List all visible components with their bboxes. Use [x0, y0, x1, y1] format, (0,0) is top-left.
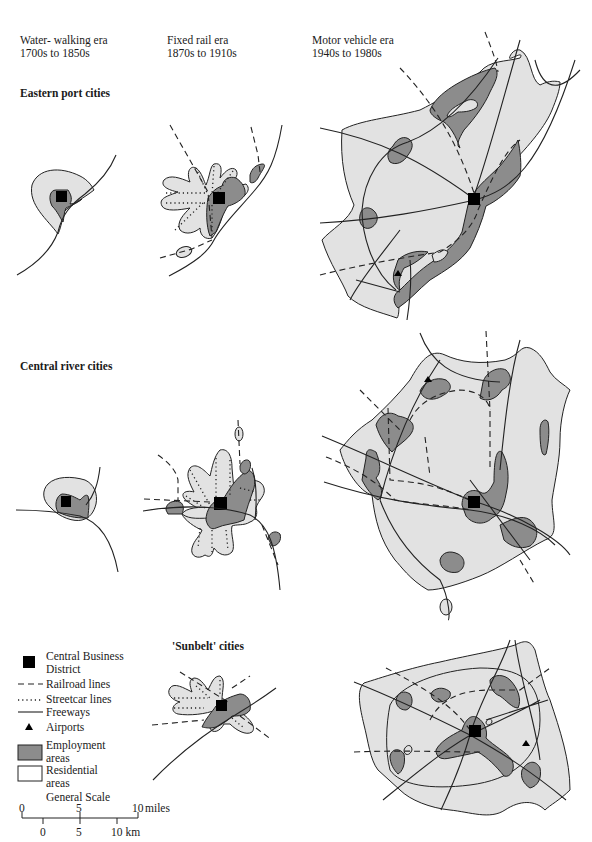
- legend-label: areas: [46, 752, 105, 765]
- diagram-sunbelt-rail: [152, 672, 276, 780]
- legend-cbd-icon: [23, 656, 35, 668]
- cbd-marker: [61, 496, 71, 507]
- legend-label: Residential: [46, 764, 98, 777]
- cbd-marker: [56, 191, 67, 202]
- scale-miles-10: 10: [132, 802, 144, 815]
- diagram-central-motor: [322, 331, 570, 620]
- legend-label: District: [46, 663, 124, 676]
- legend-streetcar: Streetcar lines: [46, 693, 111, 706]
- legend-label: Employment: [46, 739, 105, 752]
- legend-residential: Residential areas: [46, 764, 98, 789]
- scale-miles-0: 0: [19, 802, 25, 815]
- cbd-marker: [469, 725, 481, 737]
- legend-residential-icon: [18, 766, 42, 781]
- scale-km-10: 10 km: [111, 826, 140, 839]
- diagram-eastern-motor: [320, 32, 580, 320]
- diagram-central-rail: [143, 420, 281, 590]
- cbd-marker: [216, 700, 227, 711]
- diagram-eastern-walking: [17, 155, 116, 275]
- scale-miles-unit: miles: [145, 802, 170, 815]
- legend-airports: Airports: [46, 721, 84, 734]
- diagram-central-walking: [16, 467, 118, 572]
- diagram-eastern-rail: [160, 125, 282, 276]
- scale-miles-5: 5: [76, 802, 82, 815]
- scale-km-0: 0: [40, 826, 46, 839]
- legend-airport-icon: [25, 723, 33, 730]
- scale-km-5: 5: [76, 826, 82, 839]
- legend-label: areas: [46, 777, 98, 790]
- legend-freeways: Freeways: [46, 706, 90, 719]
- legend-label: Central Business: [46, 650, 124, 663]
- legend-cbd: Central Business District: [46, 650, 124, 675]
- legend-employment: Employment areas: [46, 739, 105, 764]
- legend-employment-icon: [18, 745, 42, 760]
- cbd-marker: [213, 192, 225, 204]
- cbd-marker: [468, 496, 480, 508]
- legend-railroad: Railroad lines: [46, 678, 110, 691]
- cbd-marker: [468, 193, 480, 205]
- diagram-sunbelt-motor: [354, 640, 570, 815]
